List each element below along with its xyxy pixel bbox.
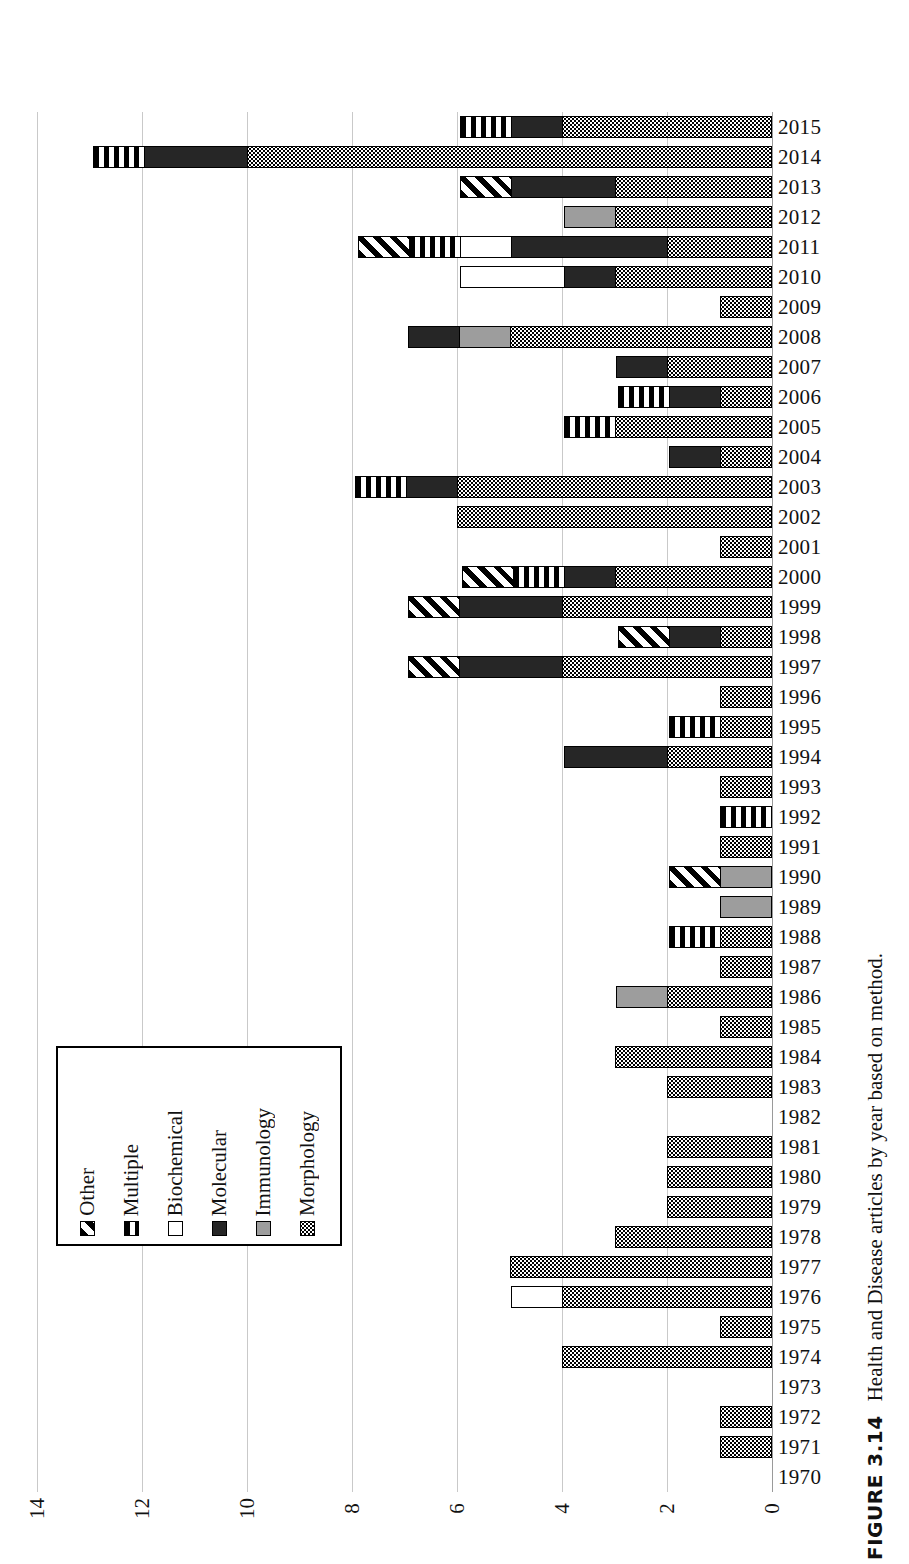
bar-segment-molecular[interactable] — [144, 146, 249, 168]
stacked-bar[interactable] — [90, 146, 773, 168]
stacked-bar[interactable] — [405, 656, 773, 678]
stacked-bar[interactable] — [720, 1436, 773, 1458]
bar-segment-multiple[interactable] — [720, 806, 773, 828]
bar-segment-molecular[interactable] — [406, 476, 459, 498]
stacked-bar[interactable] — [720, 536, 773, 558]
stacked-bar[interactable] — [667, 926, 772, 948]
bar-segment-morphology[interactable] — [720, 1316, 773, 1338]
bar-segment-molecular[interactable] — [669, 446, 722, 468]
bar-segment-morphology[interactable] — [720, 626, 773, 648]
stacked-bar[interactable] — [510, 1286, 773, 1308]
bar-segment-molecular[interactable] — [669, 386, 722, 408]
stacked-bar[interactable] — [562, 746, 772, 768]
stacked-bar[interactable] — [457, 176, 772, 198]
stacked-bar[interactable] — [720, 776, 773, 798]
bar-segment-other[interactable] — [618, 626, 671, 648]
bar-segment-morphology[interactable] — [720, 926, 773, 948]
stacked-bar[interactable] — [720, 1016, 773, 1038]
bar-segment-morphology[interactable] — [720, 836, 773, 858]
bar-segment-morphology[interactable] — [562, 116, 772, 138]
bar-segment-morphology[interactable] — [615, 176, 773, 198]
bar-segment-morphology[interactable] — [720, 296, 773, 318]
stacked-bar[interactable] — [615, 986, 773, 1008]
bar-segment-morphology[interactable] — [562, 656, 772, 678]
stacked-bar[interactable] — [352, 236, 772, 258]
bar-segment-morphology[interactable] — [615, 1226, 773, 1248]
bar-segment-molecular[interactable] — [669, 626, 722, 648]
bar-segment-immunology[interactable] — [459, 326, 512, 348]
stacked-bar[interactable] — [720, 836, 773, 858]
bar-segment-multiple[interactable] — [669, 716, 722, 738]
stacked-bar[interactable] — [405, 326, 773, 348]
stacked-bar[interactable] — [352, 476, 772, 498]
bar-segment-morphology[interactable] — [667, 236, 772, 258]
bar-segment-immunology[interactable] — [720, 866, 773, 888]
stacked-bar[interactable] — [615, 1226, 773, 1248]
bar-segment-other[interactable] — [460, 176, 513, 198]
bar-segment-morphology[interactable] — [667, 1166, 772, 1188]
bar-segment-other[interactable] — [669, 866, 722, 888]
bar-segment-morphology[interactable] — [720, 776, 773, 798]
bar-segment-morphology[interactable] — [667, 746, 772, 768]
bar-segment-other[interactable] — [462, 566, 515, 588]
stacked-bar[interactable] — [667, 1136, 772, 1158]
bar-segment-molecular[interactable] — [564, 266, 617, 288]
stacked-bar[interactable] — [615, 356, 773, 378]
bar-segment-multiple[interactable] — [564, 416, 617, 438]
bar-segment-immunology[interactable] — [564, 206, 617, 228]
stacked-bar[interactable] — [615, 1046, 773, 1068]
bar-segment-morphology[interactable] — [720, 1406, 773, 1428]
bar-segment-molecular[interactable] — [564, 746, 669, 768]
bar-segment-other[interactable] — [408, 656, 461, 678]
stacked-bar[interactable] — [457, 266, 772, 288]
bar-segment-multiple[interactable] — [409, 236, 462, 258]
bar-segment-morphology[interactable] — [720, 536, 773, 558]
stacked-bar[interactable] — [667, 1166, 772, 1188]
stacked-bar[interactable] — [667, 1076, 772, 1098]
bar-segment-other[interactable] — [408, 596, 461, 618]
bar-segment-morphology[interactable] — [615, 416, 773, 438]
bar-segment-morphology[interactable] — [510, 326, 773, 348]
stacked-bar[interactable] — [720, 296, 773, 318]
stacked-bar[interactable] — [667, 866, 772, 888]
bar-segment-morphology[interactable] — [720, 1016, 773, 1038]
bar-segment-molecular[interactable] — [564, 566, 617, 588]
bar-segment-morphology[interactable] — [667, 1196, 772, 1218]
bar-segment-morphology[interactable] — [457, 506, 772, 528]
bar-segment-molecular[interactable] — [511, 236, 669, 258]
bar-segment-morphology[interactable] — [720, 386, 773, 408]
stacked-bar[interactable] — [562, 1346, 772, 1368]
bar-segment-multiple[interactable] — [355, 476, 408, 498]
bar-segment-morphology[interactable] — [667, 356, 772, 378]
bar-segment-morphology[interactable] — [510, 1256, 773, 1278]
bar-segment-biochemical[interactable] — [511, 1286, 564, 1308]
stacked-bar[interactable] — [667, 446, 772, 468]
bar-segment-biochemical[interactable] — [460, 266, 565, 288]
bar-segment-molecular[interactable] — [408, 326, 461, 348]
bar-segment-morphology[interactable] — [562, 596, 772, 618]
bar-segment-multiple[interactable] — [460, 116, 513, 138]
stacked-bar[interactable] — [615, 386, 773, 408]
stacked-bar[interactable] — [562, 416, 772, 438]
stacked-bar[interactable] — [667, 1196, 772, 1218]
stacked-bar[interactable] — [667, 716, 772, 738]
bar-segment-morphology[interactable] — [667, 1136, 772, 1158]
stacked-bar[interactable] — [457, 116, 772, 138]
bar-segment-molecular[interactable] — [511, 176, 616, 198]
stacked-bar[interactable] — [720, 896, 773, 918]
bar-segment-multiple[interactable] — [93, 146, 146, 168]
bar-segment-morphology[interactable] — [562, 1346, 772, 1368]
bar-segment-multiple[interactable] — [669, 926, 722, 948]
stacked-bar[interactable] — [457, 566, 772, 588]
bar-segment-molecular[interactable] — [459, 596, 564, 618]
bar-segment-morphology[interactable] — [667, 986, 772, 1008]
bar-segment-molecular[interactable] — [459, 656, 564, 678]
bar-segment-morphology[interactable] — [720, 956, 773, 978]
stacked-bar[interactable] — [405, 596, 773, 618]
bar-segment-morphology[interactable] — [720, 1436, 773, 1458]
bar-segment-immunology[interactable] — [720, 896, 773, 918]
stacked-bar[interactable] — [510, 1256, 773, 1278]
bar-segment-multiple[interactable] — [513, 566, 566, 588]
stacked-bar[interactable] — [720, 686, 773, 708]
bar-segment-biochemical[interactable] — [460, 236, 513, 258]
